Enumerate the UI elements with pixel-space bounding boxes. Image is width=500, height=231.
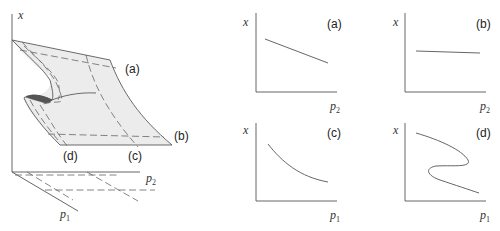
panel-b: x (b) p2	[392, 13, 491, 115]
panel-b-curve	[416, 51, 480, 53]
panel-d: x (d) p1	[392, 123, 491, 224]
panel-d-ylabel: x	[392, 123, 399, 137]
panel-c-label: (c)	[327, 126, 341, 140]
panel-a-xlabel: p2	[329, 99, 340, 115]
slice-label-a: (a)	[125, 62, 140, 76]
panel-c-ylabel: x	[242, 123, 249, 137]
panel-d-xlabel: p1	[479, 208, 490, 224]
panel-a-ylabel: x	[242, 15, 249, 29]
x-axis-label-3d: x	[17, 8, 24, 22]
panel-a-curve	[265, 39, 328, 63]
p1-axis-label-3d: p1	[59, 207, 70, 223]
cusp-surface-diagram: x (a) (b) (c) (d) p2 p1	[12, 8, 189, 223]
panel-b-label: (b)	[476, 17, 491, 31]
panel-a: x (a) p2	[242, 13, 342, 115]
panel-d-curve	[416, 133, 479, 193]
panel-c-xlabel: p1	[329, 208, 340, 224]
slice-label-d: (d)	[63, 149, 78, 163]
p2-axis-label-3d: p2	[145, 171, 156, 187]
panel-b-ylabel: x	[392, 15, 399, 29]
panel-c-curve	[268, 144, 328, 182]
floor-dash-line	[87, 172, 138, 201]
cusp-catastrophe-figure: x (a) (b) (c) (d) p2 p1 x (a) p2 x (b) p…	[0, 0, 500, 231]
panel-c: x (c) p1	[242, 123, 341, 224]
floor-dash-line	[27, 172, 73, 200]
panel-b-xlabel: p2	[479, 99, 490, 115]
slice-label-b: (b)	[174, 129, 189, 143]
panel-d-label: (d)	[476, 126, 491, 140]
p1-axis-3d	[12, 172, 78, 211]
slice-label-c: (c)	[128, 149, 142, 163]
panel-a-label: (a)	[327, 17, 342, 31]
